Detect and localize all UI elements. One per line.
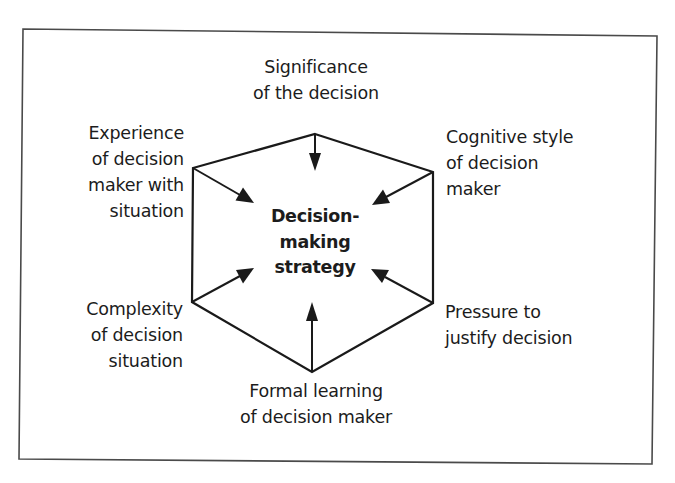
center-line: Decision- bbox=[245, 204, 385, 230]
factor-formal-learning: Formal learning of decision maker bbox=[206, 378, 426, 430]
diagram-canvas: Significance of the decision Experience … bbox=[0, 0, 675, 483]
arrow-upper-right bbox=[386, 172, 433, 197]
factor-line: justify decision bbox=[445, 325, 645, 351]
factor-line: Cognitive style bbox=[446, 124, 646, 150]
center-line: strategy bbox=[245, 255, 385, 281]
factor-line: Pressure to bbox=[445, 299, 645, 325]
arrow-lower-right bbox=[385, 277, 433, 303]
factor-significance: Significance of the decision bbox=[216, 54, 416, 106]
arrowhead-top-icon bbox=[309, 153, 321, 171]
arrowhead-bottom-icon bbox=[306, 302, 318, 321]
factor-cognitive-style: Cognitive style of decision maker bbox=[446, 124, 646, 202]
arrow-upper-left bbox=[193, 168, 240, 195]
factor-pressure: Pressure to justify decision bbox=[445, 299, 645, 351]
factor-experience: Experience of decision maker with situat… bbox=[23, 120, 184, 224]
factor-complexity: Complexity of decision situation bbox=[23, 296, 183, 374]
center-decision-making-strategy: Decision- making strategy bbox=[245, 204, 385, 281]
arrowhead-upper-left-icon bbox=[236, 188, 255, 204]
factor-line: situation bbox=[23, 348, 183, 374]
factor-line: of the decision bbox=[216, 80, 416, 106]
factor-line: of decision maker bbox=[206, 404, 426, 430]
arrow-lower-left bbox=[192, 276, 240, 302]
factor-line: Significance bbox=[216, 54, 416, 80]
factor-line: of decision bbox=[23, 146, 184, 172]
factor-line: Experience bbox=[23, 120, 184, 146]
factor-line: maker with bbox=[23, 172, 184, 198]
factor-line: of decision bbox=[23, 322, 183, 348]
factor-line: maker bbox=[446, 176, 646, 202]
factor-line: situation bbox=[23, 198, 184, 224]
factor-line: of decision bbox=[446, 150, 646, 176]
factor-line: Formal learning bbox=[206, 378, 426, 404]
center-line: making bbox=[245, 230, 385, 256]
factor-line: Complexity bbox=[23, 296, 183, 322]
